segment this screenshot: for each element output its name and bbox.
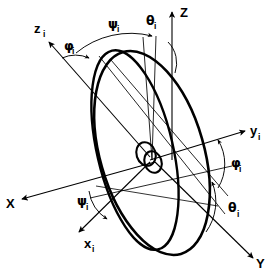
axis-label-yi-subscript: i	[258, 132, 260, 142]
axis-label-zi: z	[34, 21, 41, 36]
axis-label-Z: Z	[180, 5, 188, 20]
angle-subscript-psi-left: i	[86, 202, 88, 212]
axis-label-xi: x	[84, 236, 92, 251]
axis-label-yi: y	[250, 123, 258, 138]
angle-subscript-theta-top: i	[154, 21, 156, 31]
angle-subscript-phi-top: i	[72, 46, 74, 56]
angle-subscript-psi-top: i	[117, 24, 119, 34]
euler-angle-orbital-diagram: Z X Y z i y i x i	[0, 0, 273, 276]
axis-label-X: X	[6, 196, 15, 211]
angle-subscript-phi-right: i	[239, 164, 241, 174]
axis-label-zi-subscript: i	[43, 29, 45, 39]
diagram-canvas: Z X Y z i y i x i	[0, 0, 273, 276]
angle-subscript-theta-right: i	[237, 209, 239, 219]
axis-label-xi-subscript: i	[92, 244, 94, 254]
angle-symbol-theta-right: θ	[228, 200, 237, 215]
axis-label-Y: Y	[256, 256, 265, 271]
